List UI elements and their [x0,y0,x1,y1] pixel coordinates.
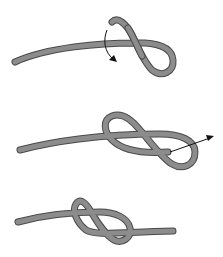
knot-step-2 [0,90,223,180]
rope-step-2 [20,115,195,167]
rope-step-3 [18,201,173,241]
knot-step-1 [0,0,223,90]
figure-eight-knot-diagram [0,0,223,257]
knot-step-3 [0,180,223,257]
rope-step-1 [15,20,173,74]
